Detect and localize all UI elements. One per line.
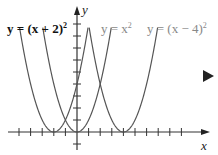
label-exponent: 2 bbox=[63, 21, 67, 30]
x-axis-arrow-icon bbox=[201, 129, 210, 135]
y-axis-label: y bbox=[82, 3, 88, 16]
y-axis-arrow-icon bbox=[74, 6, 80, 15]
label-text: y = x bbox=[101, 21, 128, 36]
label-text: y = (x − 4) bbox=[147, 21, 203, 36]
label-exponent: 2 bbox=[203, 21, 207, 30]
label-exponent: 2 bbox=[128, 21, 132, 30]
x-axis-label: x bbox=[201, 139, 207, 152]
label-x-minus-4: y = (x − 4)2 bbox=[147, 19, 207, 35]
label-x-squared: y = x2 bbox=[101, 19, 132, 35]
label-text: y = (x + 2) bbox=[7, 21, 63, 36]
play-triangle-icon[interactable] bbox=[203, 70, 214, 82]
label-x-plus-2: y = (x + 2)2 bbox=[7, 19, 67, 35]
parabola-curve bbox=[20, 28, 88, 132]
parabola-curve bbox=[89, 28, 157, 132]
